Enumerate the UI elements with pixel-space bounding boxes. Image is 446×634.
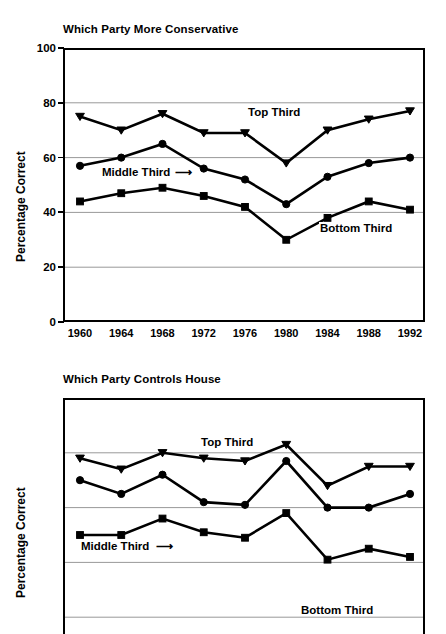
data-point	[118, 190, 125, 197]
data-point	[324, 214, 331, 221]
series-label-middle-third: Middle Third ⟶	[101, 166, 195, 178]
y-tick-mark	[58, 157, 64, 159]
series-label-middle-third: Middle Third ⟶	[80, 540, 178, 552]
data-point	[283, 236, 290, 243]
x-tick-label: 1968	[141, 328, 185, 339]
data-point	[241, 176, 248, 183]
data-point	[283, 457, 290, 464]
y-tick-mark	[58, 266, 64, 268]
data-point	[324, 504, 331, 511]
series-label-top-third: Top Third	[247, 106, 301, 118]
data-point	[407, 206, 414, 213]
chart-which-party-more-conservative: Which Party More Conservative Percentage…	[0, 0, 446, 350]
y-tick-mark	[58, 47, 64, 49]
y-tick-label: 100	[22, 43, 56, 53]
data-point	[200, 193, 207, 200]
data-point	[323, 482, 332, 489]
data-point	[324, 556, 331, 563]
data-point	[76, 477, 83, 484]
data-point	[159, 140, 166, 147]
plot-svg	[63, 398, 425, 634]
chart-title: Which Party Controls House	[63, 373, 221, 385]
series-line-middle-third	[80, 461, 410, 508]
x-tick-label: 1964	[99, 328, 143, 339]
x-tick-label: 1980	[264, 328, 308, 339]
x-tick-label: 1976	[223, 328, 267, 339]
data-point	[406, 490, 413, 497]
plot-area	[63, 398, 425, 634]
series-label-middle-third-text: Middle Third	[81, 540, 149, 552]
y-tick-label: 80	[22, 98, 56, 108]
data-point	[77, 198, 84, 205]
y-tick-mark	[58, 102, 64, 104]
data-point	[200, 529, 207, 536]
data-point	[282, 160, 291, 167]
data-point	[365, 545, 372, 552]
data-point	[159, 471, 166, 478]
series-label-top-third: Top Third	[200, 436, 254, 448]
x-tick-label: 1988	[347, 328, 391, 339]
y-tick-mark	[58, 211, 64, 213]
y-axis-title: Percentage Correct	[14, 487, 28, 598]
series-label-middle-third-text: Middle Third	[102, 166, 170, 178]
data-point	[283, 201, 290, 208]
arrow-right-icon: ⟶	[174, 166, 194, 178]
data-point	[406, 154, 413, 161]
data-point	[407, 554, 414, 561]
data-point	[117, 127, 126, 134]
x-tick-label: 1960	[58, 328, 102, 339]
data-point	[365, 504, 372, 511]
x-tick-label: 1984	[306, 328, 350, 339]
data-point	[159, 515, 166, 522]
data-point	[242, 534, 249, 541]
y-tick-label: 60	[22, 153, 56, 163]
arrow-right-icon: ⟶	[153, 540, 177, 552]
x-tick-label: 1972	[182, 328, 226, 339]
data-point	[118, 532, 125, 539]
data-point	[200, 165, 207, 172]
data-point	[365, 159, 372, 166]
y-tick-label: 0	[22, 317, 56, 327]
data-point	[200, 499, 207, 506]
plot-area	[63, 48, 425, 322]
data-point	[77, 532, 84, 539]
data-point	[159, 184, 166, 191]
data-point	[241, 501, 248, 508]
data-point	[118, 490, 125, 497]
chart-title: Which Party More Conservative	[63, 23, 238, 35]
data-point	[283, 510, 290, 517]
y-tick-label: 40	[22, 207, 56, 217]
data-point	[324, 173, 331, 180]
y-tick-mark	[58, 321, 64, 323]
series-label-bottom-third: Bottom Third	[300, 604, 374, 616]
series-label-bottom-third: Bottom Third	[319, 222, 393, 234]
data-point	[76, 162, 83, 169]
chart-which-party-controls-house: Which Party Controls House Percentage Co…	[0, 350, 446, 634]
plot-svg	[63, 48, 425, 322]
data-point	[365, 198, 372, 205]
data-point	[242, 204, 249, 211]
y-tick-label: 20	[22, 262, 56, 272]
data-point	[118, 154, 125, 161]
x-tick-label: 1992	[388, 328, 432, 339]
